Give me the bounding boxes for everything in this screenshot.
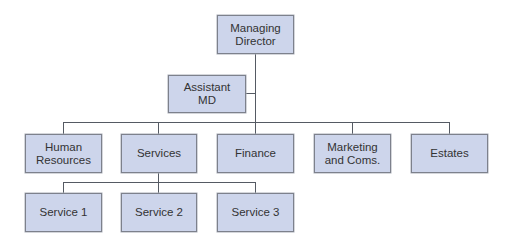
- connector-service-bar: [63, 182, 256, 183]
- node-service-1: Service 1: [25, 193, 102, 232]
- connector-md-trunk: [255, 53, 256, 123]
- node-managing-director: Managing Director: [217, 15, 294, 54]
- node-assistant-md: Assistant MD: [168, 75, 246, 113]
- node-service-3: Service 3: [217, 193, 294, 232]
- connector-service-3: [255, 182, 256, 193]
- connector-assistant-md: [245, 93, 255, 94]
- connector-estates: [449, 122, 450, 134]
- node-services: Services: [121, 134, 197, 173]
- node-estates: Estates: [411, 134, 488, 173]
- connector-services: [158, 122, 159, 134]
- connector-marketing: [352, 122, 353, 134]
- connector-department-bar: [63, 122, 450, 123]
- connector-service-1: [63, 182, 64, 193]
- connector-finance: [255, 122, 256, 134]
- node-service-2: Service 2: [121, 193, 197, 232]
- node-human-resources: Human Resources: [25, 134, 102, 173]
- connector-hr: [63, 122, 64, 134]
- node-marketing-and-coms: Marketing and Coms.: [314, 134, 391, 173]
- node-finance: Finance: [217, 134, 294, 173]
